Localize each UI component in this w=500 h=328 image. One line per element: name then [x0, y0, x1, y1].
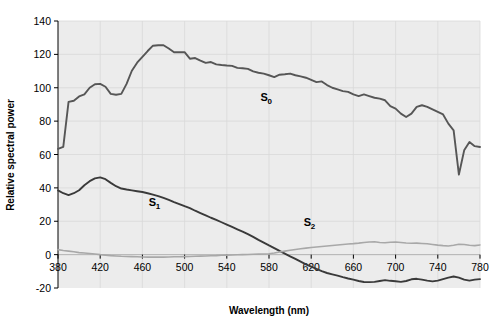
- x-tick-label: 580: [260, 261, 278, 273]
- x-tick-label: 660: [345, 261, 363, 273]
- x-tick-label: 740: [429, 261, 447, 273]
- x-tick-label: 540: [218, 261, 236, 273]
- y-tick-label: 0: [45, 249, 51, 261]
- series-label-sub-s2: 2: [311, 222, 316, 231]
- x-tick-label: 460: [134, 261, 152, 273]
- y-tick-label: 60: [39, 149, 51, 161]
- chart-svg: 380420460500540580620660700740780 -20020…: [0, 0, 500, 328]
- x-tick-label: 500: [176, 261, 194, 273]
- x-axis-title: Wavelength (nm): [229, 305, 309, 316]
- series-label-sub-s0: 0: [268, 97, 273, 106]
- y-tick-label: 40: [39, 182, 51, 194]
- y-tick-label: 100: [33, 82, 51, 94]
- y-tick-label: 80: [39, 115, 51, 127]
- y-axis-title: Relative spectral power: [5, 99, 16, 211]
- x-tick-label: 700: [387, 261, 405, 273]
- y-tick-label: 140: [33, 15, 51, 27]
- y-tick-label: 120: [33, 48, 51, 60]
- y-tick-label: -20: [36, 282, 51, 294]
- x-tick-label: 780: [471, 261, 489, 273]
- x-tick-label: 420: [91, 261, 109, 273]
- y-tick-label: 20: [39, 215, 51, 227]
- series-label-sub-s1: 1: [156, 202, 161, 211]
- spectral-power-chart: 380420460500540580620660700740780 -20020…: [0, 0, 500, 328]
